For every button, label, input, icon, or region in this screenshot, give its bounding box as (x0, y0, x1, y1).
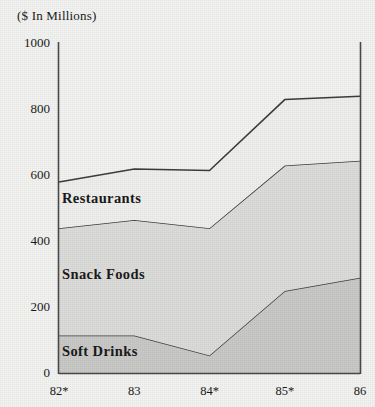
y-tick-label: 800 (6, 101, 50, 117)
plot-area (0, 0, 375, 407)
x-tick-label: 85* (261, 384, 309, 399)
axis-unit-label: ($ In Millions) (17, 8, 97, 24)
series-label-snack-foods: Snack Foods (62, 266, 145, 283)
x-tick-label: 86 (336, 384, 375, 399)
series-label-restaurants: Restaurants (62, 190, 141, 207)
y-tick-label: 600 (6, 167, 50, 183)
x-tick-label: 84* (186, 384, 234, 399)
stacked-area-bands (59, 96, 360, 373)
y-tick-label: 1000 (6, 35, 50, 51)
y-tick-label: 200 (6, 299, 50, 315)
area-chart: ($ In Millions) 02004006008001000 82*838… (0, 0, 375, 407)
series-label-soft-drinks: Soft Drinks (62, 343, 138, 360)
x-tick-label: 82* (35, 384, 83, 399)
y-tick-label: 0 (6, 365, 50, 381)
y-tick-label: 400 (6, 233, 50, 249)
x-tick-label: 83 (110, 384, 158, 399)
